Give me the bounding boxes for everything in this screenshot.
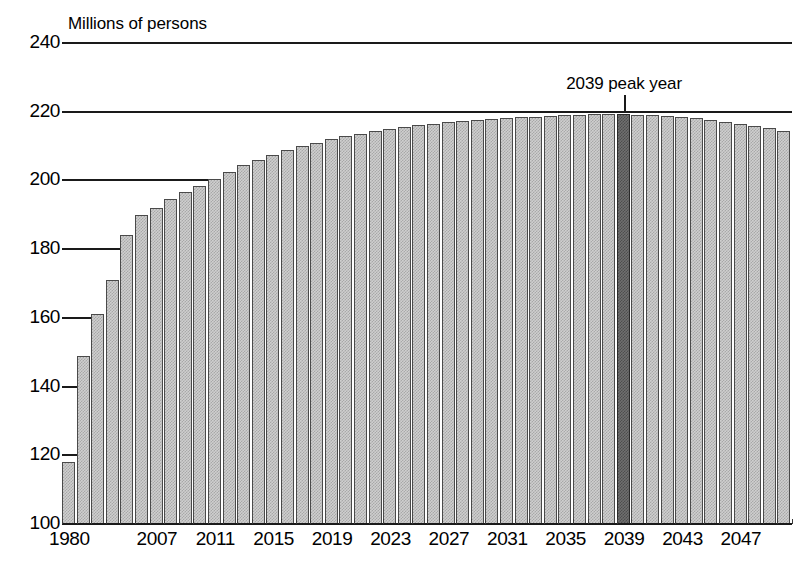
bar xyxy=(675,117,688,524)
bar xyxy=(383,129,396,524)
x-axis-tick xyxy=(164,519,165,524)
y-axis-tick: 240 xyxy=(0,32,60,51)
bar xyxy=(529,117,542,524)
bar xyxy=(704,120,717,524)
bar xyxy=(763,128,776,524)
bar xyxy=(106,280,119,524)
x-axis-tick xyxy=(281,519,282,524)
bar xyxy=(135,215,148,524)
chart-container: Millions of persons 24022020018016014012… xyxy=(0,0,806,567)
x-axis-tick xyxy=(398,519,399,524)
bar xyxy=(471,120,484,524)
x-axis-tick xyxy=(252,519,253,524)
x-axis-tick-label: 2007 xyxy=(137,528,178,550)
x-axis-tick xyxy=(704,519,705,524)
x-axis-tick xyxy=(383,519,384,524)
bar xyxy=(398,127,411,524)
x-axis-tick xyxy=(223,519,224,524)
x-axis-tick-label: 2011 xyxy=(196,528,235,550)
bar xyxy=(412,125,425,524)
y-axis-tick: 120 xyxy=(0,444,60,463)
annotation-leader-line xyxy=(624,95,626,113)
x-axis-tick xyxy=(558,519,559,524)
x-axis-tick xyxy=(500,519,501,524)
x-axis-tick xyxy=(106,519,107,524)
bar xyxy=(485,119,498,524)
x-axis-tick-label: 2031 xyxy=(487,528,528,550)
x-axis-tick xyxy=(515,519,516,524)
x-axis-tick xyxy=(412,519,413,524)
x-axis-tick xyxy=(661,519,662,524)
x-axis-tick xyxy=(777,519,778,524)
bar xyxy=(515,117,528,524)
bar xyxy=(120,235,133,524)
plot-area xyxy=(62,42,792,524)
bar xyxy=(223,172,236,524)
x-axis-tick xyxy=(266,519,267,524)
x-axis-tick xyxy=(792,519,793,524)
bar xyxy=(252,160,265,524)
x-axis-tick xyxy=(77,519,78,524)
bar xyxy=(179,192,192,524)
bar xyxy=(281,150,294,524)
x-axis-tick xyxy=(529,519,530,524)
x-axis-tick xyxy=(369,519,370,524)
y-axis-tick-label: 240 xyxy=(8,32,60,51)
x-axis-tick xyxy=(91,519,92,524)
x-axis-tick xyxy=(325,519,326,524)
bar xyxy=(690,118,703,524)
x-axis-tick-label: 2043 xyxy=(662,528,703,550)
x-axis-tick xyxy=(471,519,472,524)
y-axis-tick-label: 140 xyxy=(8,376,60,395)
x-axis-tick xyxy=(310,519,311,524)
bar xyxy=(456,121,469,524)
x-axis-tick-label: 2023 xyxy=(370,528,411,550)
bar xyxy=(369,131,382,524)
x-axis-tick xyxy=(602,519,603,524)
bar xyxy=(558,115,571,524)
y-axis-tick-label: 220 xyxy=(8,101,60,120)
bar xyxy=(77,356,90,524)
y-axis-tick: 220 xyxy=(0,101,60,120)
x-axis-tick xyxy=(588,519,589,524)
x-axis-tick xyxy=(179,519,180,524)
x-axis-tick-label: 2039 xyxy=(604,528,645,550)
x-axis-tick xyxy=(763,519,764,524)
bar-peak-year xyxy=(617,114,630,524)
x-axis-tick xyxy=(631,519,632,524)
bar xyxy=(427,124,440,524)
x-axis-tick xyxy=(573,519,574,524)
x-axis-tick-label: 2035 xyxy=(545,528,586,550)
bar xyxy=(661,116,674,524)
x-axis-tick xyxy=(544,519,545,524)
x-axis-tick xyxy=(339,519,340,524)
bar xyxy=(777,131,790,524)
bar-series xyxy=(62,42,792,524)
x-axis-tick xyxy=(354,519,355,524)
x-axis-tick-label: 1980 xyxy=(49,528,90,550)
x-axis-tick-label: 2047 xyxy=(721,528,762,550)
x-axis-tick xyxy=(748,519,749,524)
y-axis-tick: 160 xyxy=(0,307,60,326)
y-axis-tick: 200 xyxy=(0,169,60,188)
x-axis-tick xyxy=(485,519,486,524)
x-axis-tick xyxy=(427,519,428,524)
x-axis-tick xyxy=(296,519,297,524)
y-axis-tick-label: 120 xyxy=(8,444,60,463)
x-axis-tick xyxy=(646,519,647,524)
bar xyxy=(500,118,513,524)
x-axis-tick xyxy=(62,519,63,524)
y-axis-tick-label: 200 xyxy=(8,169,60,188)
bar xyxy=(62,462,75,524)
bar xyxy=(266,155,279,524)
x-axis-tick xyxy=(120,519,121,524)
x-axis-tick xyxy=(617,519,618,524)
x-axis-tick xyxy=(456,519,457,524)
bar xyxy=(602,114,615,524)
y-axis-tick-label: 180 xyxy=(8,238,60,257)
x-axis-tick xyxy=(734,519,735,524)
y-axis-title: Millions of persons xyxy=(68,14,207,33)
bar xyxy=(91,314,104,524)
peak-year-annotation: 2039 peak year xyxy=(566,74,682,93)
x-axis-tick xyxy=(719,519,720,524)
